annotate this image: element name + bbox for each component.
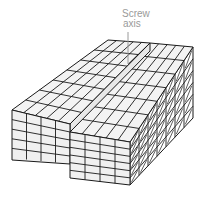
- label-line-2: axis: [122, 19, 150, 29]
- crystal-block: [12, 40, 193, 185]
- diagram-canvas: Screw axis: [0, 0, 205, 198]
- screw-axis-label: Screw axis: [122, 9, 150, 29]
- crystal-lattice-illustration: [0, 0, 205, 198]
